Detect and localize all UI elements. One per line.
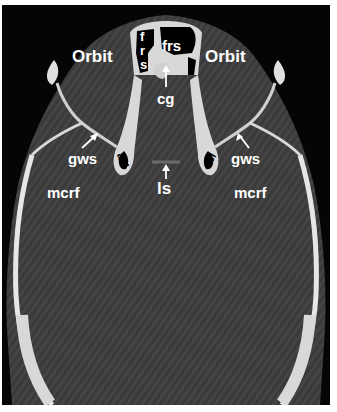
label-orbit-right: Orbit: [205, 48, 246, 65]
label-gws-left: gws: [68, 151, 97, 166]
label-cg: cg: [157, 91, 175, 106]
label-frs-letter-s: s: [140, 58, 147, 71]
label-ls: ls: [157, 180, 171, 197]
orbit-wall-left: [47, 60, 58, 85]
label-frs-letter-f: f: [140, 30, 144, 43]
label-orbit-left: Orbit: [72, 48, 113, 65]
label-mcrf-left: mcrf: [47, 185, 80, 200]
orbit-wall-right: [274, 60, 285, 85]
label-mcrf-right: mcrf: [234, 185, 267, 200]
ct-scan-graphic: [2, 5, 330, 405]
label-frs: frs: [162, 38, 181, 53]
label-frs-letter-r: r: [140, 44, 145, 57]
ct-scan-image: Orbit Orbit f r s frs cg gws gws acl acl…: [2, 5, 330, 405]
label-gws-right: gws: [231, 151, 260, 166]
